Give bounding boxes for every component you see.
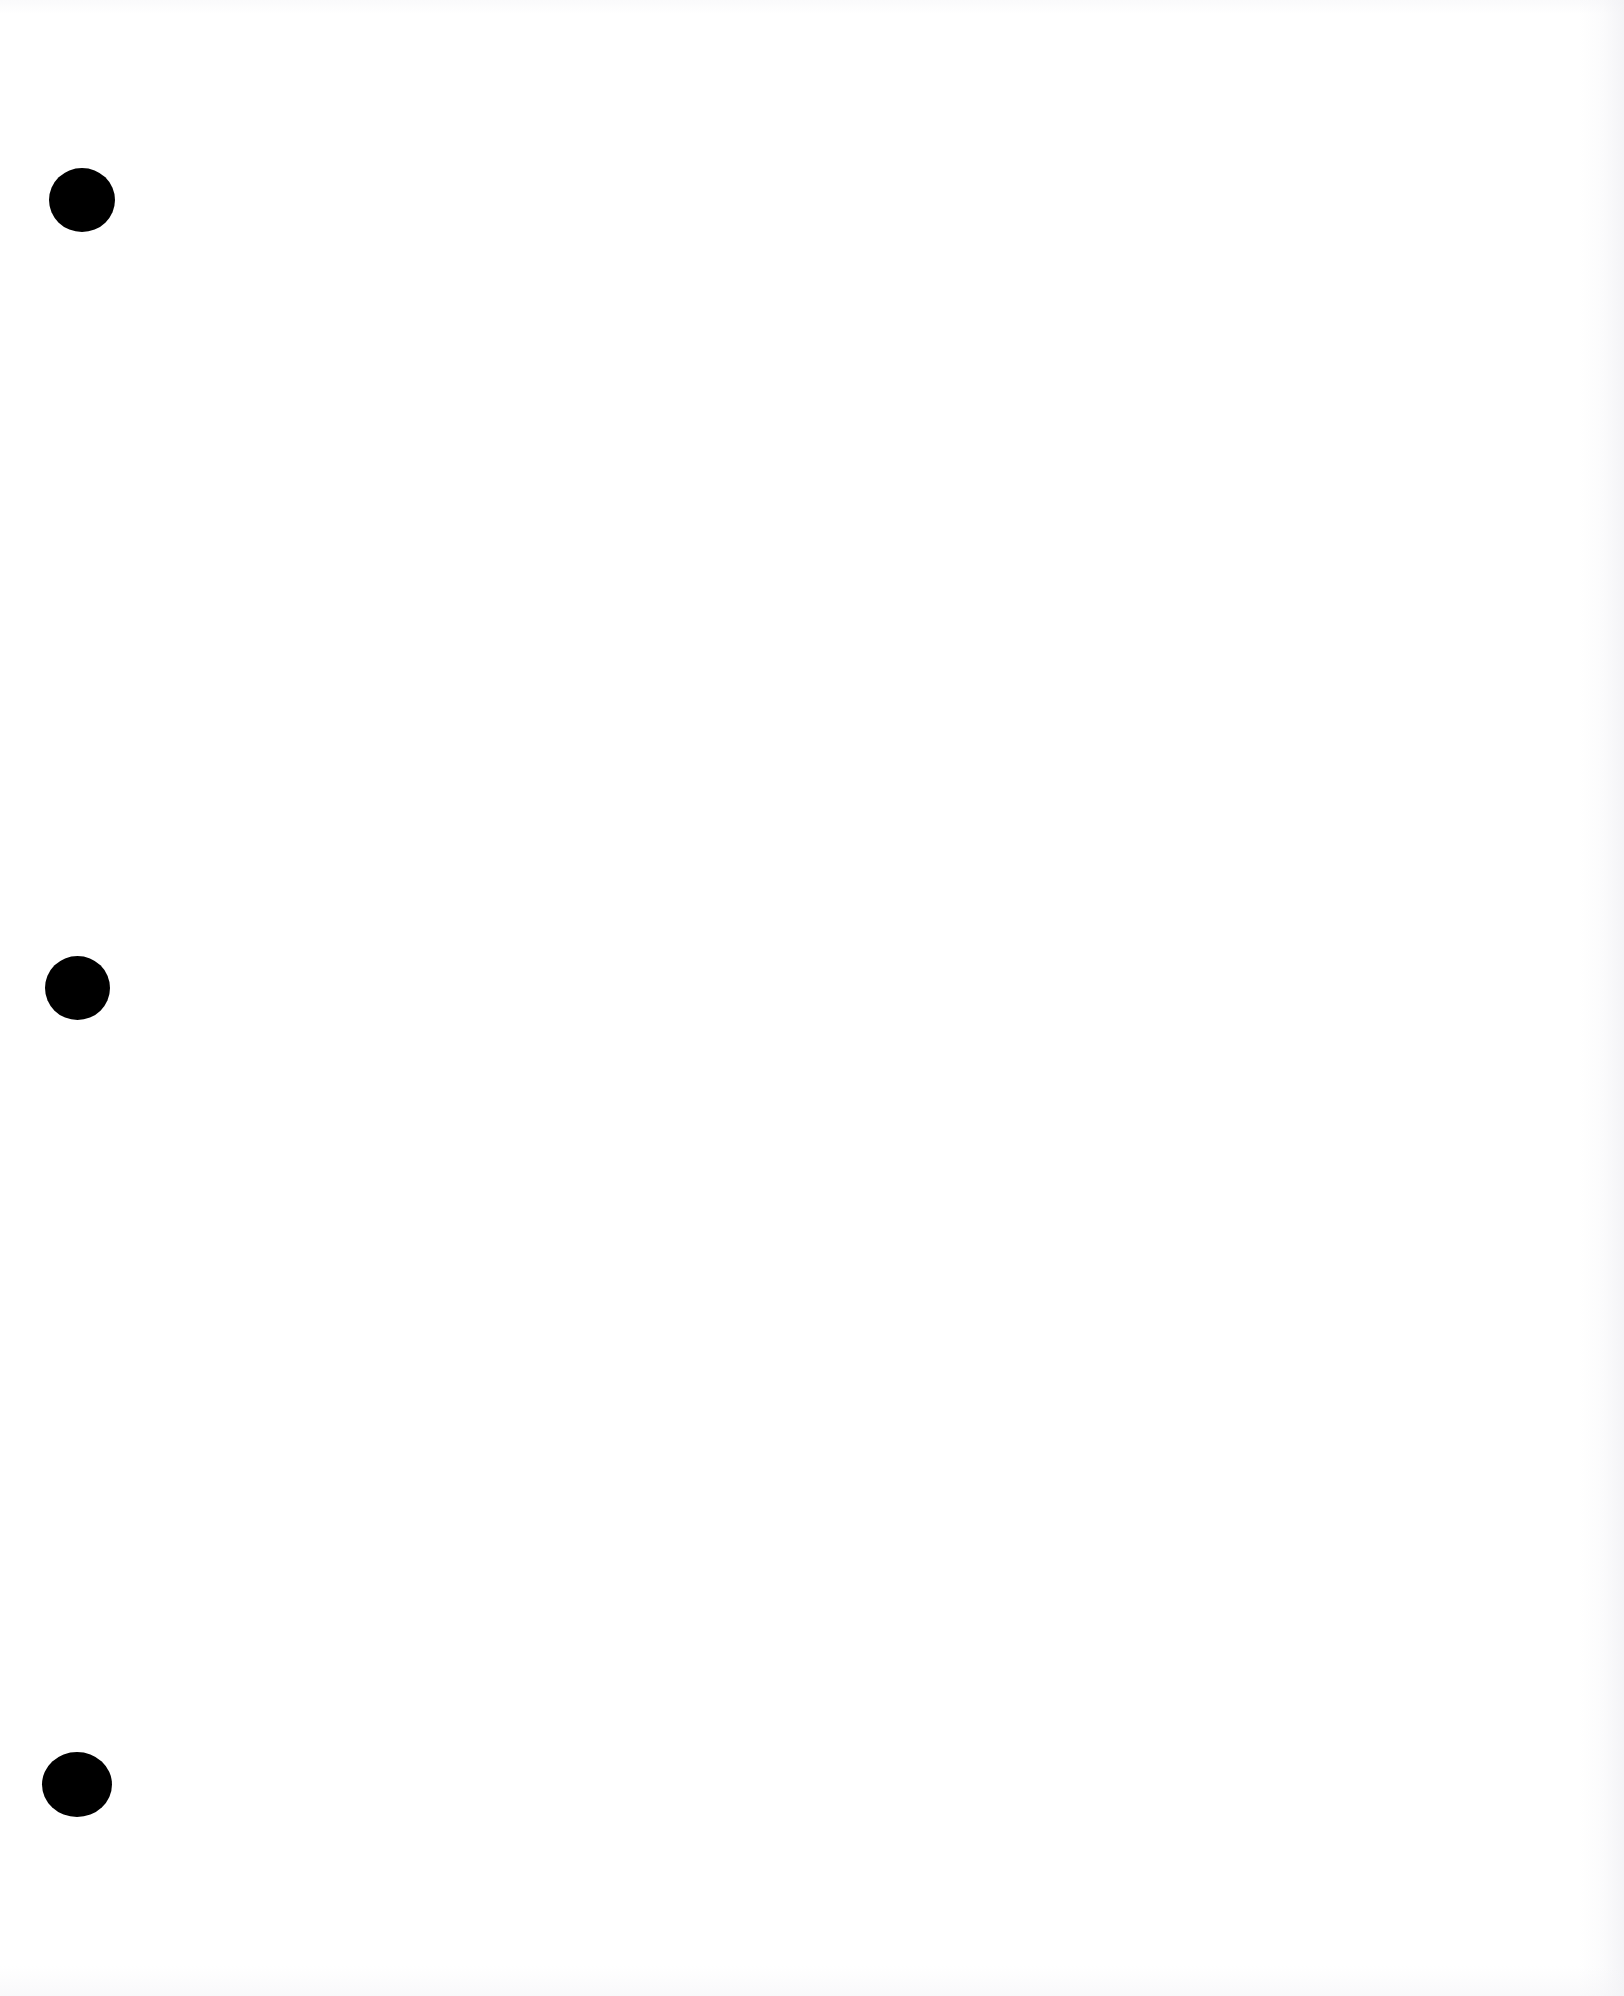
punch-mark-middle-icon <box>45 956 110 1020</box>
punch-mark-bottom-icon <box>42 1752 112 1817</box>
scan-edge-bottom <box>0 1966 1624 1996</box>
scan-edge-top <box>0 0 1624 14</box>
scan-edge-right <box>1578 0 1624 1996</box>
scanned-page <box>0 0 1624 1996</box>
punch-mark-top-icon <box>49 168 115 232</box>
